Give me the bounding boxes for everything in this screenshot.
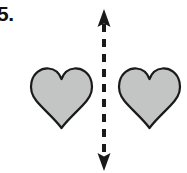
- heart-left-shape: [31, 68, 92, 128]
- symmetry-figure: [0, 0, 187, 173]
- figure-canvas: [0, 0, 187, 173]
- worksheet-problem-figure: 5.: [0, 0, 187, 173]
- mirror-line-arrowhead-bottom: [98, 153, 111, 171]
- heart-right-shape: [119, 68, 180, 128]
